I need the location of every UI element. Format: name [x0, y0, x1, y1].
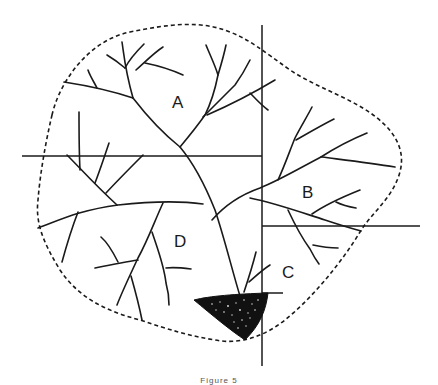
stream-left-2 — [67, 155, 117, 205]
stream-d-4 — [101, 237, 118, 262]
stream-bc-10 — [313, 245, 338, 248]
stream-a-2 — [107, 55, 125, 68]
stream-bc-3 — [296, 119, 334, 140]
region-label-c: C — [282, 263, 294, 282]
stream-d-7 — [166, 268, 191, 269]
stream-left-1 — [79, 112, 80, 170]
stream-d-2 — [117, 203, 163, 305]
stream-a-6 — [64, 82, 133, 98]
stream-a-9 — [203, 60, 250, 117]
stream-d-5 — [131, 276, 142, 320]
stream-bc-8 — [336, 202, 356, 208]
stream-a-5 — [145, 63, 183, 75]
stream-a-8 — [180, 45, 226, 147]
stream-left-4 — [106, 155, 143, 193]
stream-d-1 — [62, 212, 78, 262]
stream-a-12 — [250, 93, 268, 110]
stream-bc-4 — [321, 133, 367, 157]
region-label-d: D — [174, 232, 186, 251]
stream-bc-2 — [278, 107, 312, 180]
main-stream — [133, 98, 240, 296]
stream-bc-5 — [322, 157, 395, 167]
pond — [194, 293, 268, 340]
stream-d-top — [38, 202, 203, 228]
stream-a-10 — [206, 45, 218, 75]
region-label-b: B — [302, 183, 313, 202]
stream-c-1 — [244, 252, 256, 292]
stream-left-3 — [95, 143, 109, 183]
stream-bc-9 — [288, 210, 319, 264]
figure-caption: Figure 5 — [0, 376, 438, 385]
stream-a-7 — [88, 70, 97, 88]
region-label-a: A — [172, 93, 184, 112]
stream-a-1 — [122, 42, 133, 98]
stream-a-11 — [207, 80, 275, 115]
stream-d-3 — [95, 260, 138, 268]
watershed-diagram: A B C D — [0, 0, 438, 385]
